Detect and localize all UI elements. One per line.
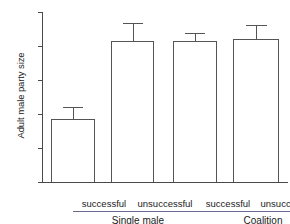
plot-area: 0 4 8 12 16 20 successful unsuccessful s… bbox=[42, 12, 288, 182]
y-tick-2 bbox=[38, 114, 42, 115]
x-axis-line bbox=[42, 182, 288, 183]
bar-chart-figure: Adult male party size 0 4 8 12 16 20 s bbox=[0, 0, 290, 224]
error-bar-cap-3 bbox=[246, 25, 267, 26]
group-rule-coalition bbox=[199, 211, 290, 212]
group-rule-single-male bbox=[73, 211, 203, 212]
error-bar-stem-3 bbox=[256, 25, 257, 39]
bar-0[interactable] bbox=[51, 119, 95, 182]
y-axis-title: Adult male party size bbox=[15, 6, 26, 186]
x-group-label-1: Coalition bbox=[199, 215, 290, 224]
error-bar-stem-1 bbox=[133, 23, 134, 41]
error-bar-stem-0 bbox=[73, 107, 74, 119]
y-tick-3 bbox=[38, 80, 42, 81]
bar-2[interactable] bbox=[173, 41, 217, 182]
y-axis-line bbox=[42, 12, 43, 182]
bar-1[interactable] bbox=[111, 41, 154, 182]
x-group-label-0: Single male bbox=[73, 215, 203, 224]
bar-3[interactable] bbox=[233, 39, 279, 182]
error-bar-stem-2 bbox=[195, 33, 196, 41]
y-tick-0 bbox=[38, 182, 42, 183]
y-tick-5 bbox=[38, 12, 42, 13]
error-bar-cap-2 bbox=[185, 33, 205, 34]
y-tick-1 bbox=[38, 148, 42, 149]
error-bar-cap-1 bbox=[123, 23, 143, 24]
y-tick-4 bbox=[38, 46, 42, 47]
x-category-label-3: unsuccessful bbox=[246, 198, 290, 209]
error-bar-cap-0 bbox=[63, 107, 83, 108]
